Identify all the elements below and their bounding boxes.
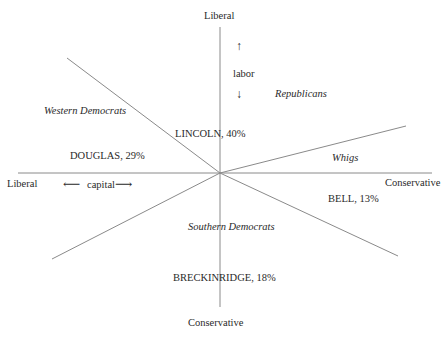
right-axis-label: Conservative	[385, 177, 440, 189]
region-western-democrats: Western Democrats	[44, 105, 126, 117]
candidate-lincoln: LINCOLN, 40%	[175, 128, 246, 140]
left-axis-label: Liberal	[7, 178, 37, 190]
candidate-bell: BELL, 13%	[328, 193, 379, 205]
bottom-axis-label: Conservative	[188, 317, 243, 329]
arrow-down-icon: ↓	[236, 88, 242, 100]
top-axis-label: Liberal	[204, 10, 234, 22]
arrow-right-icon: ⟶	[115, 178, 132, 190]
arrow-up-icon: ↑	[236, 40, 242, 52]
candidate-douglas: DOUGLAS, 29%	[70, 150, 145, 162]
region-whigs: Whigs	[332, 152, 358, 164]
arrow-left-icon: ⟵	[63, 178, 80, 190]
region-southern-democrats: Southern Democrats	[188, 221, 275, 233]
divider-upper-right	[220, 126, 406, 173]
diagram-lines	[0, 0, 447, 338]
candidate-breckinridge: BRECKINRIDGE, 18%	[173, 272, 276, 284]
labor-label: labor	[233, 68, 255, 80]
capital-label: capital	[87, 179, 115, 191]
divider-lower-right	[220, 173, 398, 256]
region-republicans: Republicans	[275, 88, 327, 100]
